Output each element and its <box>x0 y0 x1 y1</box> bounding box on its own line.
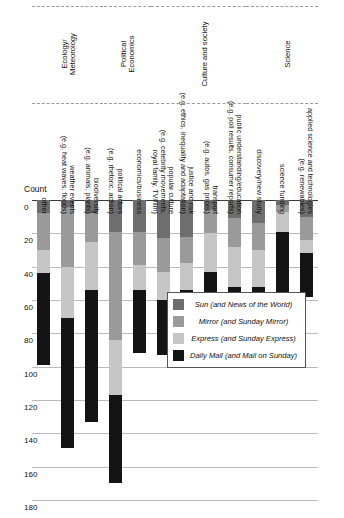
legend-item: Express (and Sunday Express) <box>173 333 300 344</box>
axis-tick-label: 20 <box>24 236 33 245</box>
bar-segment <box>109 340 122 395</box>
legend-label: Sun (and News of the World) <box>195 300 293 309</box>
bar-segment <box>252 250 265 287</box>
bar-segment <box>85 213 98 241</box>
group-label: Political Economics <box>121 10 138 98</box>
bar-segment <box>252 223 265 250</box>
bar-stack <box>109 200 122 483</box>
group-label: Ecology/ Meteorology <box>61 10 78 98</box>
bar-segment <box>85 242 98 290</box>
stacked-bar-chart: 020406080100120140160180Count applied sc… <box>0 0 344 518</box>
bar-segment <box>37 213 50 250</box>
bar-segment <box>157 238 170 271</box>
bar-segment <box>133 265 146 290</box>
chart-canvas: 020406080100120140160180Count applied sc… <box>0 0 344 518</box>
bar-segment <box>61 318 74 448</box>
group-label: Culture and society <box>200 10 208 98</box>
bar-segment <box>37 273 50 365</box>
gridline <box>32 500 318 501</box>
axis-tick-label: 160 <box>24 470 37 479</box>
gridline <box>32 433 318 434</box>
axis-tick-label: 120 <box>24 403 37 412</box>
bar-segment <box>300 253 313 296</box>
axis-tick-label: 60 <box>24 303 33 312</box>
bar-segment <box>204 233 217 271</box>
axis-tick-label: 80 <box>24 336 33 345</box>
legend-label: Mirror (and Sunday Mirror) <box>199 317 288 326</box>
bar-segment <box>85 290 98 422</box>
bar-stack <box>300 200 313 297</box>
legend-swatch <box>173 316 184 327</box>
legend-swatch <box>173 350 184 361</box>
bar-segment <box>133 290 146 353</box>
bar-stack <box>133 200 146 353</box>
bar-segment <box>300 240 313 253</box>
bar-segment <box>109 395 122 483</box>
chart-legend: Daily Mail (and Mail on Sunday)Express (… <box>167 292 306 368</box>
bar-segment <box>109 232 122 340</box>
bar-segment <box>180 263 193 290</box>
bar-stack <box>228 200 241 307</box>
legend-label: Express (and Sunday Express) <box>192 334 297 343</box>
bar-stack <box>85 200 98 422</box>
axis-tick-label: 180 <box>24 503 37 512</box>
bar-segment <box>61 207 74 267</box>
legend-swatch <box>173 299 184 310</box>
legend-item: Daily Mail (and Mail on Sunday) <box>173 350 300 361</box>
bar-segment <box>276 212 289 232</box>
group-label: Science <box>284 10 292 98</box>
axis-tick-label: 100 <box>24 370 37 379</box>
bar-segment <box>228 218 241 246</box>
bar-segment <box>61 267 74 319</box>
axis-tick-label: 40 <box>24 270 33 279</box>
gridline <box>32 467 318 468</box>
bar-segment <box>180 237 193 264</box>
bar-stack <box>276 200 289 307</box>
bar-stack <box>61 200 74 448</box>
bar-segment <box>300 217 313 240</box>
bar-segment <box>228 247 241 287</box>
gridline <box>32 400 318 401</box>
legend-label: Daily Mail (and Mail on Sunday) <box>190 351 297 360</box>
bar-segment <box>37 250 50 273</box>
bar-segment <box>133 232 146 265</box>
legend-swatch <box>173 333 184 344</box>
legend-item: Sun (and News of the World) <box>173 299 300 310</box>
bar-stack <box>252 200 265 307</box>
axis-tick-label: 140 <box>24 436 37 445</box>
legend-item: Mirror (and Sunday Mirror) <box>173 316 300 327</box>
axis-tick-label: 0 <box>24 203 28 212</box>
bar-stack <box>37 200 50 365</box>
